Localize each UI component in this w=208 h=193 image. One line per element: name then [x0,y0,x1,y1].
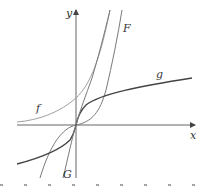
y-axis-label: y [65,7,73,20]
function-graph-diagram: y x F g f G [0,0,208,193]
curve-label-g: g [156,68,163,81]
bottom-dotted-divider [0,184,208,186]
curve-label-F: F [122,22,131,35]
graph-canvas: y x F g f G [0,0,208,193]
curve-f [17,10,110,122]
curve-label-G: G [63,168,72,181]
curve-label-f: f [35,102,42,115]
curve-G [63,10,110,178]
curve-g [17,78,192,164]
x-axis-label: x [190,129,197,142]
